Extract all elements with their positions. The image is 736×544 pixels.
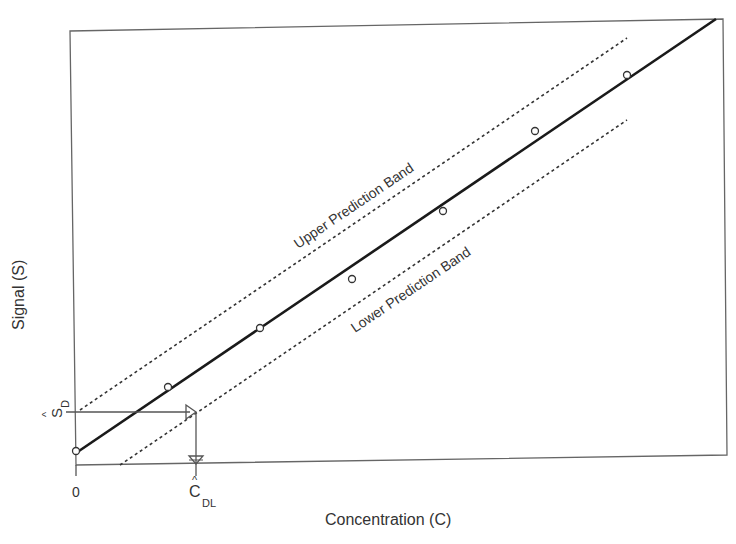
data-point bbox=[532, 128, 539, 135]
data-point bbox=[624, 72, 631, 79]
x-axis-label: Concentration (C) bbox=[325, 511, 451, 528]
y-axis-label: Signal (S) bbox=[10, 260, 27, 330]
data-point bbox=[73, 448, 80, 455]
data-point bbox=[165, 384, 172, 391]
svg-text:DL: DL bbox=[202, 497, 216, 509]
svg-text:D: D bbox=[59, 400, 71, 408]
svg-text:C: C bbox=[189, 483, 201, 500]
sd-label: S D ^ bbox=[40, 400, 71, 418]
calibration-chart: Upper Prediction Band Lower Prediction B… bbox=[0, 0, 736, 544]
data-point bbox=[440, 208, 447, 215]
x-tick-zero: 0 bbox=[72, 484, 80, 500]
cdl-label: ^ C DL bbox=[189, 474, 216, 509]
data-point bbox=[257, 325, 264, 332]
upper-prediction-band bbox=[80, 38, 627, 410]
data-point bbox=[349, 276, 356, 283]
plot-frame bbox=[70, 19, 727, 465]
upper-band-label: Upper Prediction Band bbox=[291, 159, 417, 251]
svg-text:^: ^ bbox=[40, 411, 52, 417]
